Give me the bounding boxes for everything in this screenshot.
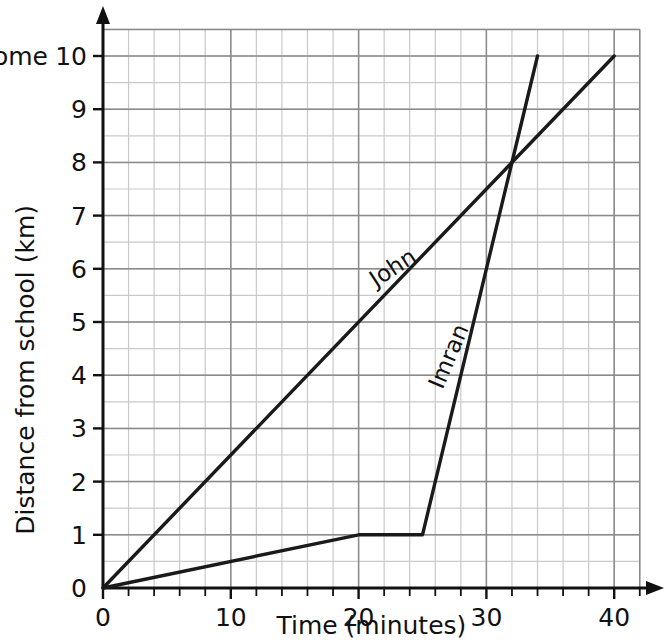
chart-canvas: 010203040 012345678910 JohnImran Home Ti… [0, 0, 670, 640]
y-tick-label: 1 [71, 521, 87, 550]
home-annotation-label: Home [0, 42, 48, 71]
x-tick-label: 0 [95, 603, 111, 632]
y-tick-label: 4 [71, 361, 87, 390]
distance-time-chart: 010203040 012345678910 JohnImran Home Ti… [0, 0, 670, 640]
chart-background [0, 0, 670, 640]
y-tick-label: 2 [71, 468, 87, 497]
y-tick-label: 10 [55, 42, 87, 71]
y-tick-label: 6 [71, 255, 87, 284]
y-tick-label: 9 [71, 95, 87, 124]
x-tick-label: 30 [470, 603, 502, 632]
x-tick-label: 40 [598, 603, 630, 632]
y-tick-label: 0 [71, 574, 87, 603]
y-tick-label: 7 [71, 202, 87, 231]
x-axis-title: Time (minutes) [275, 611, 466, 640]
y-tick-label: 3 [71, 414, 87, 443]
y-tick-label: 5 [71, 308, 87, 337]
x-tick-label: 10 [215, 603, 247, 632]
y-tick-label: 8 [71, 148, 87, 177]
y-axis-title: Distance from school (km) [11, 205, 40, 535]
